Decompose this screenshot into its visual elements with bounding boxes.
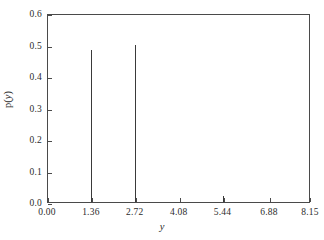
x-tick-mark	[310, 198, 311, 202]
x-tick-label: 8.15	[301, 207, 318, 217]
y-tick-mark	[48, 47, 52, 48]
data-spike	[91, 50, 92, 202]
y-axis-title-variable: y	[2, 95, 13, 100]
y-axis-title-close-paren: )	[2, 91, 13, 95]
y-tick-label: 0.3	[30, 104, 42, 114]
x-axis-title: y	[0, 221, 324, 232]
x-tick-mark	[48, 198, 49, 202]
plot-area	[47, 14, 310, 203]
data-spike	[135, 45, 136, 202]
y-tick-mark	[48, 141, 52, 142]
y-axis-title: p(y)	[2, 91, 13, 108]
x-tick-mark	[270, 198, 271, 202]
x-tick-label: 5.44	[214, 207, 231, 217]
y-tick-mark	[48, 15, 52, 16]
y-tick-mark	[48, 204, 52, 205]
y-tick-mark	[48, 173, 52, 174]
y-tick-mark	[48, 78, 52, 79]
x-tick-mark	[180, 198, 181, 202]
y-tick-label: 0.6	[30, 9, 42, 19]
y-tick-label: 0.5	[30, 41, 42, 51]
x-tick-label: 6.88	[260, 207, 277, 217]
y-axis-title-p: p	[2, 103, 13, 108]
x-tick-label: 1.36	[82, 207, 99, 217]
x-tick-label: 0.00	[38, 207, 55, 217]
y-tick-label: 0.2	[30, 135, 42, 145]
y-tick-mark	[48, 110, 52, 111]
y-axis-title-open-paren: (	[2, 99, 13, 103]
figure: 0.00.10.20.30.40.50.6 0.001.362.724.085.…	[0, 0, 324, 240]
x-tick-label: 2.72	[126, 207, 143, 217]
y-tick-label: 0.1	[30, 167, 42, 177]
x-tick-mark	[136, 198, 137, 202]
y-tick-label: 0.4	[30, 72, 42, 82]
x-tick-label: 4.08	[170, 207, 187, 217]
x-tick-mark	[224, 198, 225, 202]
x-tick-mark	[92, 198, 93, 202]
